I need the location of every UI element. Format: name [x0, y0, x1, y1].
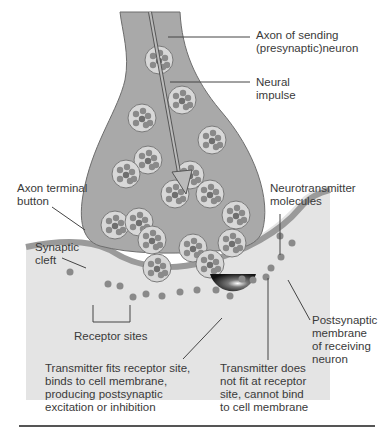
- label-axon-terminal: Axon terminal button: [17, 182, 87, 208]
- label-postsynaptic-membrane: Postsynaptic membrane of receiving neuro…: [312, 314, 377, 366]
- label-neural-impulse: Neural impulse: [256, 76, 296, 102]
- label-receptor-sites: Receptor sites: [74, 330, 148, 343]
- label-axon: Axon of sending (presynaptic)neuron: [256, 29, 358, 55]
- label-transmitter-fits: Transmitter fits receptor site, binds to…: [45, 362, 190, 414]
- label-transmitter-not-fit: Transmitter does not fit at receptor sit…: [220, 362, 308, 414]
- label-neurotransmitter: Neurotransmitter molecules: [270, 182, 356, 208]
- bottom-rule: [19, 425, 375, 427]
- label-synaptic-cleft: Synaptic cleft: [35, 241, 79, 267]
